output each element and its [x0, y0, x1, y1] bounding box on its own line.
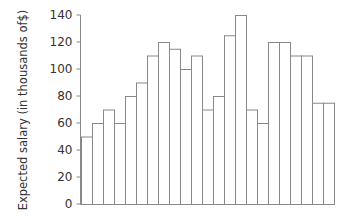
bar — [93, 124, 104, 205]
bar — [137, 83, 148, 205]
bar — [269, 43, 280, 205]
bar — [203, 110, 214, 205]
y-tick-label: 40 — [57, 143, 72, 157]
y-tick-label: 60 — [57, 116, 72, 130]
bar — [247, 110, 258, 205]
bar — [104, 110, 115, 205]
bar — [302, 56, 313, 205]
y-tick-label: 20 — [57, 170, 72, 184]
bar-chart: Expected salary (in thousands of$) 02040… — [0, 0, 350, 217]
bar — [181, 70, 192, 205]
y-axis: 020406080100120140 — [50, 8, 81, 211]
bar — [170, 49, 181, 204]
bar — [313, 103, 324, 204]
bars — [82, 16, 335, 205]
y-tick-label: 120 — [50, 35, 73, 49]
y-tick-label: 80 — [57, 89, 72, 103]
y-tick-label: 140 — [50, 8, 73, 22]
y-axis-title: Expected salary (in thousands of$) — [16, 10, 30, 211]
bar — [291, 56, 302, 205]
bar — [192, 56, 203, 205]
bar — [82, 137, 93, 205]
y-tick-label: 0 — [65, 197, 73, 211]
bar — [225, 36, 236, 205]
bar — [324, 103, 335, 204]
bar — [258, 124, 269, 205]
y-tick-label: 100 — [50, 62, 73, 76]
bar — [126, 97, 137, 205]
bar — [214, 97, 225, 205]
bar — [280, 43, 291, 205]
bar — [159, 43, 170, 205]
bar — [236, 16, 247, 205]
bar — [115, 124, 126, 205]
bar — [148, 56, 159, 205]
